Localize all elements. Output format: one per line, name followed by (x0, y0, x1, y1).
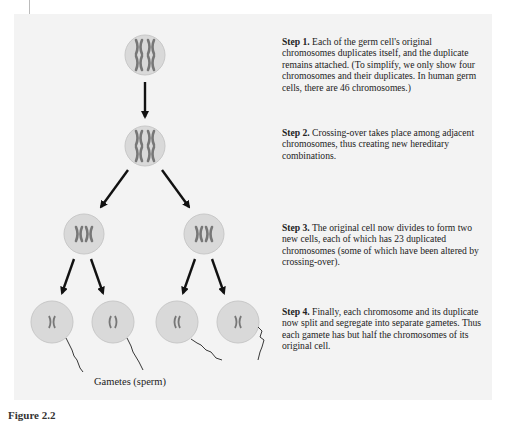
crossover-cell (125, 126, 165, 166)
gamete-2 (92, 301, 143, 370)
daughter-cell-right (184, 214, 224, 254)
step-description: Finally, each chromosome and its duplica… (282, 306, 481, 351)
germ-cell (125, 35, 165, 75)
arrow (91, 259, 103, 293)
gamete-1 (31, 301, 83, 372)
step-1-text: Step 1. Each of the germ cell's original… (282, 36, 487, 93)
step-4-text: Step 4. Finally, each chromosome and its… (282, 306, 487, 352)
step-3-text: Step 3. The original cell now divides to… (282, 222, 487, 268)
arrow (183, 259, 195, 293)
step-description: Each of the germ cell's original chromos… (282, 36, 476, 93)
arrow (62, 259, 74, 293)
step-2-text: Step 2. Crossing-over takes place among … (282, 127, 487, 161)
arrow-left (101, 170, 128, 207)
step-label: Step 2. (282, 127, 310, 138)
gametes-label: Gametes (sperm) (0, 376, 260, 387)
gamete-3 (156, 301, 222, 360)
step-description: Crossing-over takes place among adjacent… (282, 127, 474, 161)
daughter-cell-left (64, 214, 104, 254)
arrow-right (162, 170, 189, 207)
arrow (212, 259, 224, 293)
step-description: The original cell now divides to form tw… (282, 222, 479, 267)
gamete-4 (217, 301, 264, 360)
step-label: Step 3. (282, 222, 310, 233)
figure-caption: Figure 2.2 (8, 409, 55, 421)
step-label: Step 1. (282, 36, 310, 47)
step-label: Step 4. (282, 306, 310, 317)
